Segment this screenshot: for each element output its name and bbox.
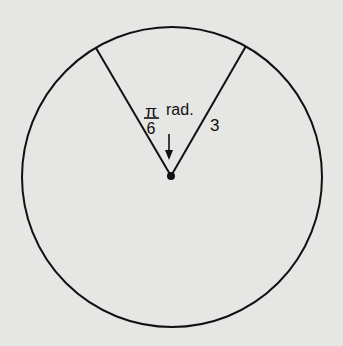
left-radius-line — [96, 48, 171, 176]
circle-sector-diagram: π 6 rad. 3 — [0, 0, 343, 346]
angle-denominator: 6 — [147, 120, 156, 137]
radius-label: 3 — [210, 116, 219, 135]
arrowhead-icon — [165, 150, 173, 160]
angle-unit: rad. — [166, 101, 194, 118]
center-point — [167, 172, 175, 180]
